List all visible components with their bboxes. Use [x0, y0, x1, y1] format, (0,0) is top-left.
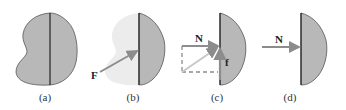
free-body-diagram: (a) F (b) N f (c) N (d) — [0, 0, 346, 110]
resultant-vector — [182, 48, 217, 72]
normal-label-N: N — [195, 32, 203, 44]
normal-label-N: N — [275, 33, 283, 45]
panel-label-a: (a) — [39, 91, 52, 104]
panel-label-c: (c) — [211, 91, 224, 104]
panel-b: F (b) — [91, 13, 165, 104]
panel-label-d: (d) — [284, 91, 297, 104]
force-label-F: F — [91, 69, 98, 81]
friction-label-f: f — [225, 56, 229, 68]
panel-label-b: (b) — [127, 91, 140, 104]
right-half-body — [139, 13, 165, 85]
body-shape — [16, 13, 77, 85]
panel-c: N f (c) — [182, 13, 246, 104]
right-half-body — [220, 13, 246, 85]
faded-body-shape — [105, 13, 139, 85]
panel-a: (a) — [16, 13, 77, 104]
right-half-body — [301, 13, 327, 85]
panel-d: N (d) — [262, 13, 327, 104]
